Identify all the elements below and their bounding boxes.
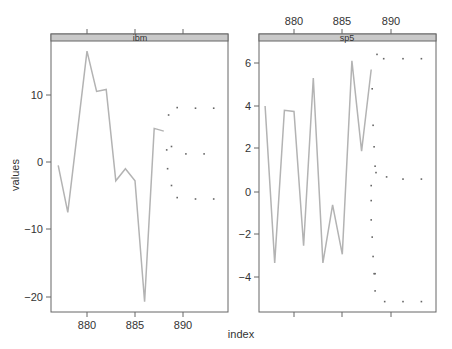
forecast-point	[168, 114, 170, 116]
forecast-point	[185, 153, 187, 155]
forecast-point	[203, 153, 205, 155]
x-tick-label: 885	[333, 15, 351, 27]
x-tick-label: 885	[126, 319, 144, 331]
forecast-point	[213, 107, 215, 109]
x-axis-top-ibm	[87, 29, 183, 34]
panel-sp5: sp5 6 4 2 0 −2 −4 880 885 890	[238, 15, 436, 317]
panel-ibm: ibm 10 0 −10 −20 880 885 890	[24, 29, 228, 331]
y-tick-label: −20	[24, 291, 43, 303]
y-tick-label: −4	[238, 271, 251, 283]
y-tick-label: 2	[245, 142, 251, 154]
y-tick-label: −2	[238, 228, 251, 240]
y-tick-label: 0	[37, 156, 43, 168]
forecast-point	[171, 146, 173, 148]
forecast-point	[171, 185, 173, 187]
y-tick-label: 4	[245, 100, 251, 112]
forecast-point	[375, 172, 377, 174]
x-tick-label: 880	[285, 15, 303, 27]
forecast-point	[374, 165, 376, 167]
y-axis-ibm: 10 0 −10 −20	[24, 89, 51, 303]
forecast-point	[386, 176, 388, 178]
x-axis-title: index	[228, 328, 255, 340]
x-axis-bottom-ibm: 880 885 890	[78, 312, 192, 331]
panel-sp5-frame	[259, 34, 436, 312]
forecast-point	[371, 88, 373, 90]
y-tick-label: 6	[245, 57, 251, 69]
x-tick-label: 890	[382, 15, 400, 27]
forecast-point	[166, 149, 168, 151]
forecast-point	[195, 107, 197, 109]
forecast-point	[370, 185, 372, 187]
forecast-point	[376, 54, 378, 56]
forecast-point	[374, 290, 376, 292]
forecast-point	[402, 178, 404, 180]
forecast-point	[167, 168, 169, 170]
y-axis-sp5: 6 4 2 0 −2 −4	[238, 57, 259, 283]
forecast-point	[373, 146, 375, 148]
forecast-point	[372, 256, 374, 258]
chart-canvas: ibm 10 0 −10 −20 880 885 890	[0, 0, 452, 349]
forecast-point	[421, 301, 423, 303]
forecast-point	[370, 200, 372, 202]
forecast-point	[195, 198, 197, 200]
y-tick-label: 10	[31, 89, 43, 101]
forecast-point	[176, 107, 178, 109]
forecast-point	[371, 236, 373, 238]
forecast-point	[421, 178, 423, 180]
x-axis-bottom-sp5	[294, 312, 391, 317]
forecast-point	[421, 58, 423, 60]
y-tick-label: −10	[24, 223, 43, 235]
panel-ibm-frame	[51, 34, 228, 312]
forecast-point	[213, 198, 215, 200]
forecast-point	[370, 219, 372, 221]
forecast-point	[384, 301, 386, 303]
x-axis-top-sp5: 880 885 890	[285, 15, 400, 34]
forecast-point	[383, 58, 385, 60]
forecast-point	[372, 125, 374, 127]
forecast-point	[176, 197, 178, 199]
x-tick-label: 890	[174, 319, 192, 331]
forecast-point	[374, 273, 376, 275]
y-tick-label: 0	[245, 186, 251, 198]
forecast-point	[402, 58, 404, 60]
y-axis-title: values	[9, 159, 21, 191]
forecast-point	[402, 301, 404, 303]
x-tick-label: 880	[78, 319, 96, 331]
